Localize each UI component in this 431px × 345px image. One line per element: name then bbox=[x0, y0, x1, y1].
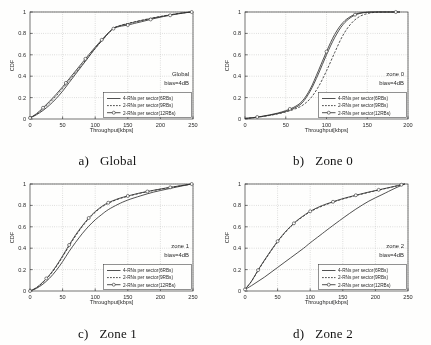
y-tick-label: 0 bbox=[238, 116, 241, 122]
panel-b-caption-title: Zone 0 bbox=[315, 153, 353, 168]
legend-label: 4-RNs per sector(6RBs) bbox=[123, 96, 173, 101]
series-marker bbox=[149, 18, 152, 21]
series-marker bbox=[354, 13, 357, 16]
legend-label: 2-RNs per sector(12RBs) bbox=[338, 283, 391, 288]
series-marker bbox=[100, 38, 103, 41]
x-tick-label: 250 bbox=[188, 122, 197, 128]
x-tick-label: 250 bbox=[188, 294, 197, 300]
annotation-line: bias=4dB bbox=[379, 252, 404, 258]
legend-marker bbox=[112, 283, 115, 286]
series-marker bbox=[64, 81, 67, 84]
x-tick-label: 50 bbox=[283, 122, 289, 128]
x-tick-label: 50 bbox=[59, 294, 65, 300]
y-tick-label: 0.6 bbox=[18, 52, 26, 58]
panel-d-zone2: 05010015020025000.20.40.60.81Throughput[… bbox=[215, 172, 431, 345]
series-marker bbox=[126, 24, 129, 27]
legend-marker bbox=[112, 111, 115, 114]
x-tick-label: 200 bbox=[156, 294, 165, 300]
x-tick-label: 0 bbox=[28, 122, 31, 128]
series-marker bbox=[309, 210, 312, 213]
panel-c-zone1: 05010015020025000.20.40.60.81Throughput[… bbox=[0, 172, 215, 345]
x-tick-label: 200 bbox=[371, 294, 380, 300]
x-tick-label: 0 bbox=[243, 122, 246, 128]
annotation-line: Global bbox=[172, 71, 189, 77]
figure-cdf-throughput-grid: 05010015020025000.20.40.60.81Throughput[… bbox=[0, 0, 431, 345]
x-tick-label: 0 bbox=[243, 294, 246, 300]
series-marker bbox=[354, 194, 357, 197]
series-marker bbox=[126, 194, 129, 197]
x-tick-label: 150 bbox=[363, 122, 372, 128]
series-marker bbox=[29, 290, 32, 293]
chart-legend: 4-RNs per sector(6RBs)2-RNs per sector(9… bbox=[104, 265, 192, 290]
series-marker bbox=[169, 14, 172, 17]
y-axis-label: CDF bbox=[9, 59, 15, 71]
y-tick-label: 0.8 bbox=[18, 30, 26, 36]
y-tick-label: 0.2 bbox=[18, 267, 26, 273]
x-axis-label: Throughput[kbps] bbox=[90, 127, 134, 133]
series-marker bbox=[257, 269, 260, 272]
legend-label: 2-RNs per sector(12RBs) bbox=[338, 111, 391, 116]
series-marker bbox=[68, 243, 71, 246]
series-marker bbox=[256, 116, 259, 119]
legend-label: 4-RNs per sector(6RBs) bbox=[338, 268, 388, 273]
series-marker bbox=[87, 217, 90, 220]
y-tick-label: 0.6 bbox=[18, 224, 26, 230]
chart-a: 05010015020025000.20.40.60.81Throughput[… bbox=[0, 0, 206, 150]
panel-c-plot: 05010015020025000.20.40.60.81Throughput[… bbox=[0, 172, 206, 322]
series-marker bbox=[276, 240, 279, 243]
y-axis-label: CDF bbox=[9, 231, 15, 243]
legend-label: 2-RNs per sector(12RBs) bbox=[123, 111, 176, 116]
series-marker bbox=[45, 277, 48, 280]
panel-annotation: zone 0bias=4dB bbox=[379, 71, 404, 86]
x-tick-label: 200 bbox=[156, 122, 165, 128]
panel-c-caption: c)Zone 1 bbox=[0, 326, 215, 342]
y-axis-label: CDF bbox=[224, 231, 230, 243]
panel-d-caption-letter: d) bbox=[293, 326, 304, 342]
series-marker bbox=[190, 11, 193, 14]
series-marker bbox=[112, 27, 115, 30]
annotation-line: zone 0 bbox=[386, 71, 404, 77]
x-tick-label: 50 bbox=[59, 122, 65, 128]
panel-b-caption: b)Zone 0 bbox=[215, 153, 431, 169]
annotation-line: bias=4dB bbox=[164, 80, 189, 86]
series-marker bbox=[29, 116, 32, 119]
legend-label: 2-RNs per sector(9RBs) bbox=[338, 275, 388, 280]
x-tick-label: 250 bbox=[403, 294, 412, 300]
y-tick-label: 0.6 bbox=[233, 52, 241, 58]
series-marker bbox=[332, 200, 335, 203]
y-axis-label: CDF bbox=[224, 59, 230, 71]
panel-a-caption-letter: a) bbox=[78, 153, 89, 169]
series-marker bbox=[146, 190, 149, 193]
panel-annotation: zone 1bias=4dB bbox=[164, 243, 189, 258]
panel-c-caption-title: Zone 1 bbox=[99, 326, 137, 341]
y-tick-label: 0.8 bbox=[233, 202, 241, 208]
x-axis-label: Throughput[kbps] bbox=[305, 127, 349, 133]
y-tick-label: 0.8 bbox=[233, 30, 241, 36]
series-marker bbox=[325, 50, 328, 53]
panel-b-zone0: 05010015020000.20.40.60.81Throughput[kbp… bbox=[215, 0, 431, 172]
y-tick-label: 0 bbox=[23, 288, 26, 294]
legend-label: 2-RNs per sector(9RBs) bbox=[338, 103, 388, 108]
legend-label: 2-RNs per sector(12RBs) bbox=[123, 283, 176, 288]
panel-a-plot: 05010015020025000.20.40.60.81Throughput[… bbox=[0, 0, 206, 150]
annotation-line: zone 1 bbox=[171, 243, 189, 249]
y-tick-label: 0.4 bbox=[233, 73, 241, 79]
annotation-line: zone 2 bbox=[386, 243, 404, 249]
series-marker bbox=[190, 183, 193, 186]
chart-legend: 4-RNs per sector(6RBs)2-RNs per sector(9… bbox=[319, 93, 407, 118]
legend-label: 4-RNs per sector(6RBs) bbox=[123, 268, 173, 273]
panel-a-global: 05010015020025000.20.40.60.81Throughput[… bbox=[0, 0, 215, 172]
chart-legend: 4-RNs per sector(6RBs)2-RNs per sector(9… bbox=[104, 93, 192, 118]
chart-legend: 4-RNs per sector(6RBs)2-RNs per sector(9… bbox=[319, 265, 407, 290]
annotation-line: bias=4dB bbox=[379, 80, 404, 86]
legend-marker bbox=[327, 283, 330, 286]
series-marker bbox=[288, 107, 291, 110]
x-axis-label: Throughput[kbps] bbox=[305, 299, 349, 305]
x-axis-label: Throughput[kbps] bbox=[90, 299, 134, 305]
y-tick-label: 1 bbox=[238, 181, 241, 187]
panel-a-caption-title: Global bbox=[100, 153, 137, 168]
y-tick-label: 0 bbox=[23, 116, 26, 122]
panel-d-plot: 05010015020025000.20.40.60.81Throughput[… bbox=[215, 172, 421, 322]
series-marker bbox=[169, 186, 172, 189]
annotation-line: bias=4dB bbox=[164, 252, 189, 258]
